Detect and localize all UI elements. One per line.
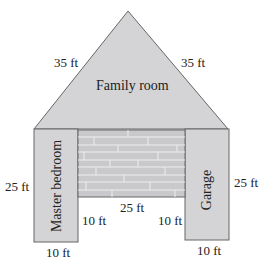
dim-bedroom-gap: 10 ft (82, 214, 106, 227)
floor-plan (0, 0, 267, 264)
dim-bedroom-width: 10 ft (46, 246, 70, 259)
dim-garage-width: 10 ft (197, 244, 221, 257)
family-room-shape (34, 11, 228, 129)
master-bedroom-label: Master bedroom (50, 136, 64, 236)
dim-patio-width: 25 ft (120, 201, 144, 214)
dim-garage-height: 25 ft (234, 176, 258, 189)
dim-triangle-left: 35 ft (54, 56, 78, 69)
dim-bedroom-height: 25 ft (5, 180, 29, 193)
garage-label: Garage (200, 165, 214, 215)
dim-garage-gap: 10 ft (158, 214, 182, 227)
family-room-label: Family room (96, 79, 169, 93)
patio-shape (78, 130, 185, 197)
dim-triangle-right: 35 ft (181, 56, 205, 69)
